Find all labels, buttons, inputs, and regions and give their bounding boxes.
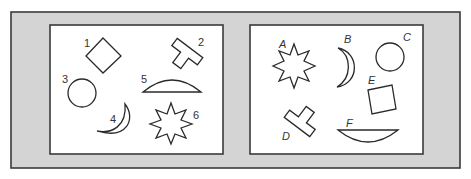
left-panel: 1 2 3 4 5 6 bbox=[50, 25, 223, 154]
label-e: E bbox=[368, 74, 376, 86]
label-c: C bbox=[403, 31, 411, 43]
label-a: A bbox=[278, 38, 286, 50]
label-1: 1 bbox=[84, 37, 90, 49]
label-d: D bbox=[282, 130, 290, 142]
label-b: B bbox=[344, 33, 351, 45]
label-4: 4 bbox=[110, 113, 116, 125]
shape-matching-figure: 1 2 3 4 5 6 A B C D bbox=[0, 0, 471, 179]
right-panel: A B C D E F bbox=[250, 25, 423, 154]
label-5: 5 bbox=[141, 73, 147, 85]
label-6: 6 bbox=[193, 109, 199, 121]
label-2: 2 bbox=[198, 36, 204, 48]
label-3: 3 bbox=[62, 73, 68, 85]
